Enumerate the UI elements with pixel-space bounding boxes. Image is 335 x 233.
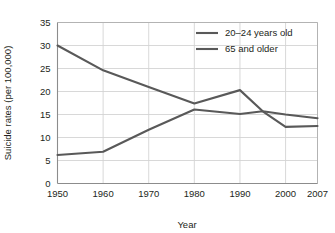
- x-tick-label-1990: 1990: [229, 188, 250, 199]
- y-tick-label-20: 20: [40, 86, 51, 97]
- x-tick-label-2007: 2007: [307, 188, 328, 199]
- x-tick-label-1950: 1950: [47, 188, 68, 199]
- y-tick-label-30: 30: [40, 40, 51, 51]
- x-tick-label-1970: 1970: [138, 188, 159, 199]
- y-tick-label-10: 10: [40, 132, 51, 143]
- y-tick-label-35: 35: [40, 17, 51, 28]
- x-tick-label-1960: 1960: [93, 188, 114, 199]
- y-tick-label-5: 5: [45, 155, 50, 166]
- chart-canvas: 05101520253035 1950196019701980199020002…: [0, 0, 335, 233]
- y-tick-label-25: 25: [40, 63, 51, 74]
- y-axis-title: Suicide rates (per 100,000): [2, 46, 13, 161]
- legend-label-1: 65 and older: [225, 43, 278, 54]
- legend-label-0: 20–24 years old: [225, 27, 293, 38]
- suicide-rates-line-chart: 05101520253035 1950196019701980199020002…: [0, 0, 335, 233]
- y-tick-label-15: 15: [40, 109, 51, 120]
- x-tick-label-1980: 1980: [184, 188, 205, 199]
- x-axis-title: Year: [177, 219, 196, 230]
- x-tick-label-2000: 2000: [275, 188, 296, 199]
